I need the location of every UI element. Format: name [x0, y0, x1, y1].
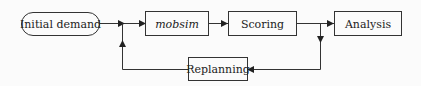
arrowhead-up — [119, 40, 126, 47]
node-scoring: Scoring — [229, 12, 297, 36]
arrowhead-analysis — [327, 20, 334, 27]
node-analysis: Analysis — [335, 12, 402, 36]
node-initial-demand: Initial demand — [20, 13, 101, 36]
node-label: Analysis — [344, 18, 391, 31]
node-label: Initial demand — [20, 18, 101, 31]
arrowhead-mobsim — [139, 20, 146, 27]
flowchart-diagram: Initial demand mobsim Scoring Analysis R… — [0, 0, 421, 86]
node-label: mobsim — [155, 18, 199, 31]
arrowhead-junction — [118, 20, 125, 27]
node-label: Replanning — [186, 63, 250, 76]
arrowhead-scoring — [221, 20, 228, 27]
node-mobsim: mobsim — [146, 12, 209, 36]
arrowhead-branch-down — [317, 36, 324, 43]
node-label: Scoring — [241, 18, 284, 31]
node-replanning: Replanning — [186, 58, 250, 81]
